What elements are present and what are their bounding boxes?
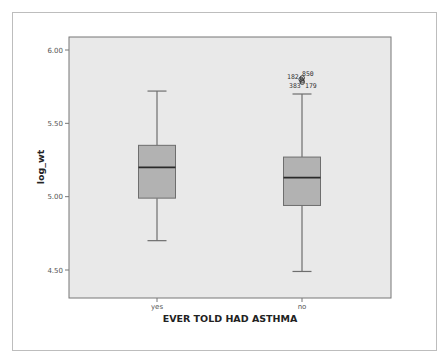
y-axis-title: log_wt (35, 149, 46, 184)
outlier-label-383: 383 (289, 82, 301, 90)
y-tick-label: 5.50 (47, 120, 63, 128)
x-axis-title: EVER TOLD HAD ASTHMA (163, 313, 298, 324)
iqr-box (139, 145, 176, 198)
y-tick-label: 5.00 (47, 193, 63, 201)
outlier-label-182: 182 (287, 73, 299, 81)
x-category-label-no: no (298, 303, 307, 311)
outlier-label-850: 850 (302, 70, 314, 78)
x-axis: yesno (151, 298, 306, 311)
y-axis: 4.505.005.506.00 (47, 47, 69, 275)
outlier-label-179: 179 (305, 82, 317, 90)
y-tick-label: 6.00 (47, 47, 63, 55)
y-tick-label: 4.50 (47, 267, 63, 275)
plot-area (69, 37, 391, 298)
boxplot-chart: 4.505.005.506.00 log_wt 182850383179 yes… (0, 0, 445, 355)
iqr-box (284, 157, 321, 205)
x-category-label-yes: yes (151, 303, 163, 311)
